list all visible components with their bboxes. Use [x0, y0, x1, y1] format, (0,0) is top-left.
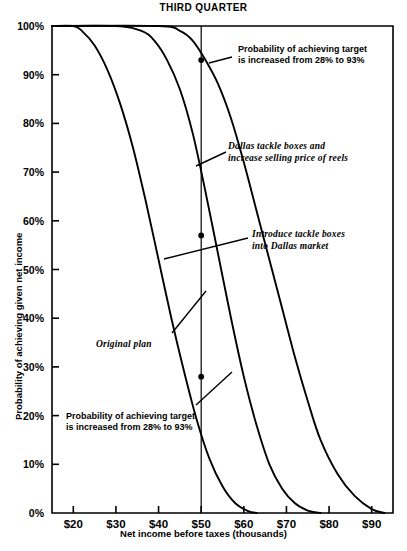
annotation-introduce-dallas: Introduce tackle boxesinto Dallas market	[252, 228, 345, 253]
annotation-line: increase selling price of reels	[228, 153, 348, 163]
annotation-line: Original plan	[96, 339, 152, 349]
annotation-line: is increased from 28% to 93%	[66, 422, 193, 432]
y-tick-label: 20%	[4, 410, 44, 422]
leader-line	[164, 238, 248, 259]
y-tick-label: 100%	[4, 20, 44, 32]
annotation-lower-probability: Probability of achieving targetis increa…	[66, 411, 195, 434]
y-tick-label: 80%	[4, 117, 44, 129]
y-tick-label: 50%	[4, 264, 44, 276]
annotation-line: is increased from 28% to 93%	[238, 55, 365, 65]
annotation-upper-probability: Probability of achieving targetis increa…	[238, 44, 367, 67]
y-tick-label: 30%	[4, 361, 44, 373]
y-tick-label: 90%	[4, 69, 44, 81]
marker-target-93	[198, 57, 204, 63]
annotation-line: into Dallas market	[252, 241, 328, 251]
chart-figure: THIRD QUARTER 0%10%20%30%40%50%60%70%80%…	[0, 0, 407, 551]
marker-midpoint-57	[198, 233, 204, 239]
leader-line	[196, 152, 226, 166]
leader-lines-layer	[164, 57, 248, 405]
curve-dallas-tackle-boxes-and-increase-selling-price-of-reels	[52, 26, 384, 513]
annotation-original-plan: Original plan	[96, 338, 152, 350]
annotation-line: Dallas tackle boxes and	[228, 141, 325, 151]
y-tick-label: 0%	[4, 507, 44, 519]
curve-original-plan	[52, 26, 257, 513]
annotation-line: Probability of achieving target	[66, 411, 195, 421]
curves-layer	[52, 26, 384, 513]
x-axis-label: Net income before taxes (thousands)	[0, 528, 407, 539]
curve-introduce-tackle-boxes-into-dallas-market	[52, 26, 321, 513]
y-tick-label: 40%	[4, 312, 44, 324]
marker-target-28	[198, 374, 204, 380]
y-tick-label: 70%	[4, 166, 44, 178]
annotation-line: Introduce tackle boxes	[252, 229, 345, 239]
leader-line	[209, 57, 232, 63]
y-tick-label: 60%	[4, 215, 44, 227]
y-axis-label: Probability of achieving given net incom…	[13, 170, 24, 420]
axes-layer	[52, 26, 393, 513]
chart-canvas	[0, 0, 407, 551]
annotation-line: Probability of achieving target	[238, 44, 367, 54]
y-tick-label: 10%	[4, 458, 44, 470]
annotation-dallas-reels: Dallas tackle boxes andincrease selling …	[228, 140, 348, 165]
